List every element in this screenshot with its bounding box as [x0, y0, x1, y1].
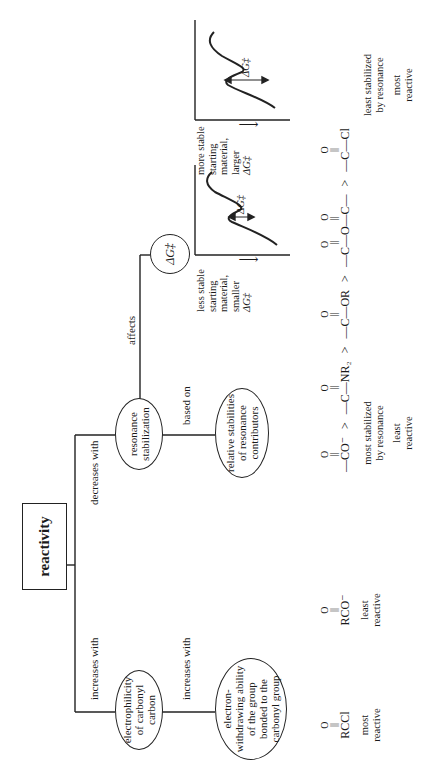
compound-ester: O || —C—OR	[320, 290, 353, 339]
greater-than: >	[338, 347, 353, 354]
caption-line: least	[391, 388, 403, 478]
least-stabilized-caption: least stabilized by resonance most react…	[362, 35, 414, 135]
caption-line: starting	[207, 269, 219, 312]
caption-line: more stable	[195, 126, 207, 175]
caption-line: less stable	[195, 269, 207, 312]
caption-line: ΔG‡	[241, 126, 253, 175]
caption-line: by resonance	[374, 35, 386, 135]
delta-g-label: ΔG‡	[164, 243, 176, 265]
double-bond: ||	[329, 361, 338, 414]
compound-rco-minus: O || RCO⁻ least reactive	[320, 590, 382, 630]
double-bond: ||	[329, 128, 338, 171]
based-on-label: based on	[180, 386, 192, 425]
reactivity-root-node: reactivity	[22, 503, 67, 590]
caption-line: most	[391, 35, 403, 135]
formula: —C—NR₂	[338, 361, 353, 414]
most-stabilized-caption: most stabilized by resonance least react…	[362, 388, 414, 478]
double-bond: ||	[329, 590, 338, 630]
caption-line: reactive	[403, 35, 415, 135]
energy-diagram-2-caption: more stable starting material, larger ΔG…	[195, 126, 253, 175]
increases-with-label-2: increases with	[180, 637, 192, 700]
compound-acyl-chloride: O || —C—Cl	[320, 128, 353, 171]
caption-line: starting	[207, 126, 219, 175]
reactivity-caption: reactive	[371, 705, 383, 745]
formula: RCO⁻	[338, 590, 353, 630]
caption-line: material,	[218, 126, 230, 175]
greater-than: >	[338, 422, 353, 429]
arrow-icon: ⟶	[238, 251, 258, 268]
double-bond: ||	[329, 290, 338, 339]
caption-line: larger	[230, 126, 242, 175]
reactivity-caption: least	[359, 590, 371, 630]
caption-line: most stabilized	[362, 388, 374, 478]
greater-than: >	[338, 180, 353, 187]
relative-stabilities-node: relative stabilities of resonance contri…	[215, 388, 269, 478]
reactivity-label: reactivity	[36, 516, 53, 577]
caption-line: by resonance	[374, 388, 386, 478]
reactivity-caption: most	[359, 705, 371, 745]
resonance-stabilization-node: resonance stabilization	[115, 398, 163, 470]
formula: —C—O—C—	[338, 194, 353, 267]
barrier-label-2: ΔG‡	[240, 58, 252, 77]
electrophilicity-label: electrophilicity of carbonyl carbon	[121, 671, 157, 749]
formula: —C—Cl	[338, 128, 353, 171]
formula: —C—OR	[338, 290, 353, 339]
formula: RCCl	[338, 705, 353, 745]
greater-than: >	[338, 275, 353, 282]
double-bonds: || ||	[329, 194, 338, 267]
reactivity-caption: reactive	[371, 590, 383, 630]
double-bond: ||	[329, 705, 338, 745]
compound-carboxylate: O || —CO⁻	[320, 437, 353, 472]
electrophilicity-node: electrophilicity of carbonyl carbon	[115, 670, 163, 750]
energy-diagram-1-caption: less stable starting material, smaller Δ…	[195, 269, 253, 312]
compound-anhydride: O O || || —C—O—C—	[320, 194, 353, 267]
compound-amide: O || —C—NR₂	[320, 361, 353, 414]
electron-withdrawing-label: electron-withdrawing ability of the grou…	[221, 659, 281, 759]
resonance-label: resonance stabilization	[127, 399, 151, 469]
arrow-icon: ⟶	[238, 116, 258, 133]
affects-label: affects	[125, 316, 137, 345]
relative-stabilities-label: relative stabilities of resonance contri…	[224, 389, 260, 477]
formula: —CO⁻	[338, 437, 353, 472]
caption-line: ΔG‡	[241, 269, 253, 312]
caption-line: reactive	[403, 388, 415, 478]
caption-line: material,	[218, 269, 230, 312]
double-bond: ||	[329, 437, 338, 472]
caption-line: least stabilized	[362, 35, 374, 135]
electron-withdrawing-node: electron-withdrawing ability of the grou…	[215, 658, 287, 760]
barrier-label-1: ΔG‡	[235, 195, 247, 214]
delta-g-node: ΔG‡	[150, 234, 190, 274]
caption-line: smaller	[230, 269, 242, 312]
compound-rccl: O || RCCl most reactive	[320, 705, 382, 745]
resonance-series: O || —CO⁻ > O || —C—NR₂ > O || —C—OR > O…	[320, 128, 353, 472]
increases-with-label: increases with	[88, 637, 100, 700]
decreases-with-label: decreases with	[88, 441, 100, 505]
